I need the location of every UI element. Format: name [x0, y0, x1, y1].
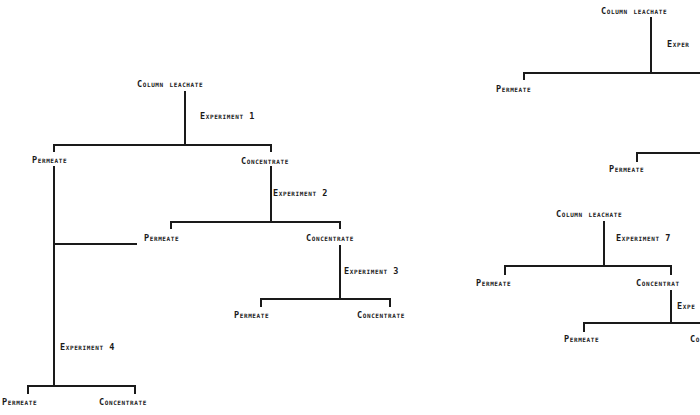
label-experiment-1: EXPERIMENT 1: [200, 111, 255, 121]
label-exp4-permeate: PERMEATE: [2, 397, 37, 407]
label-exp2-concentrate: CONCENTRATE: [306, 233, 354, 243]
label-next-concentrate-partial: CO: [690, 334, 700, 344]
connector-root-to-exp7: [603, 221, 605, 266]
label-experiment-7: EXPERIMENT 7: [616, 233, 671, 243]
drop-exp3-concentrate: [389, 298, 391, 307]
connector-exp2-permeate-merge: [53, 243, 137, 245]
connector-root-right-top: [650, 17, 652, 73]
label-exp1-concentrate: CONCENTRATE: [241, 156, 289, 166]
drop-exp1-permeate: [53, 144, 55, 152]
branch-next-exp: [583, 322, 700, 324]
label-right-top-permeate: PERMEATE: [496, 84, 531, 94]
root-label-column-leachate-right-bottom: COLUMN LEACHATE: [556, 209, 622, 219]
root-label-column-leachate-right-top: COLUMN LEACHATE: [601, 6, 667, 16]
drop-exp3-permeate: [260, 298, 262, 307]
label-experiment-partial-right-top: EXPER: [667, 39, 690, 49]
connector-root-to-exp1: [184, 91, 186, 145]
flow-diagram: COLUMN LEACHATE EXPERIMENT 1 PERMEATE CO…: [0, 0, 700, 415]
drop-exp7-permeate: [504, 265, 506, 275]
connector-concentrate-to-exp3: [339, 245, 341, 299]
branch-exp3: [260, 298, 390, 300]
label-exp4-concentrate: CONCENTRATE: [99, 397, 147, 407]
label-experiment-2: EXPERIMENT 2: [273, 188, 328, 198]
drop-right-mid-permeate: [636, 152, 638, 162]
drop-exp7-concentrate: [670, 265, 672, 275]
branch-exp2: [170, 221, 340, 223]
root-label-column-leachate: COLUMN LEACHATE: [137, 79, 203, 89]
drop-exp2-concentrate: [339, 221, 341, 229]
branch-exp7: [504, 265, 671, 267]
branch-exp1: [53, 144, 271, 146]
connector-permeate-to-exp4: [53, 166, 55, 386]
label-experiment-3: EXPERIMENT 3: [344, 266, 399, 276]
drop-exp1-concentrate: [270, 144, 272, 152]
label-next-permeate: PERMEATE: [564, 334, 599, 344]
label-exp3-concentrate: CONCENTRATE: [357, 310, 405, 320]
drop-exp4-permeate: [27, 385, 29, 394]
branch-exp4: [27, 385, 135, 387]
label-exp7-concentrate: CONCENTRAT: [636, 278, 680, 288]
branch-right-top: [523, 72, 700, 74]
drop-exp2-permeate: [170, 221, 172, 229]
label-exp2-permeate: PERMEATE: [144, 233, 179, 243]
drop-next-permeate: [583, 322, 585, 332]
drop-exp4-concentrate: [134, 385, 136, 394]
label-exp1-permeate: PERMEATE: [32, 155, 67, 165]
connector-concentrate-to-next-exp: [670, 290, 672, 323]
label-experiment-partial-right-bottom: EXPE: [677, 301, 695, 311]
label-exp3-permeate: PERMEATE: [234, 310, 269, 320]
label-exp7-permeate: PERMEATE: [476, 278, 511, 288]
drop-right-top-permeate: [523, 72, 525, 80]
connector-concentrate-to-exp2: [270, 166, 272, 222]
label-experiment-4: EXPERIMENT 4: [60, 342, 115, 352]
label-right-mid-permeate: PERMEATE: [609, 164, 644, 174]
branch-right-mid: [636, 152, 700, 154]
